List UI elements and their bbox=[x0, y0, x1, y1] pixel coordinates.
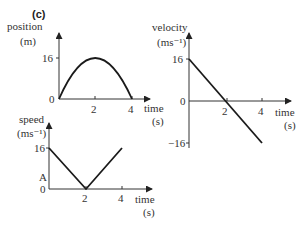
velocity-x-tick-label-4: 4 bbox=[258, 105, 264, 117]
velocity-y-tick-label-16: 16 bbox=[172, 53, 184, 65]
velocity-y-tick-label-neg16: −16 bbox=[168, 137, 186, 149]
speed-x-tick-label-2: 2 bbox=[82, 192, 88, 204]
position-y-label: position bbox=[7, 20, 43, 32]
velocity-y-unit: (ms⁻¹) bbox=[157, 36, 187, 49]
speed-y-label: speed bbox=[19, 113, 45, 125]
speed-y-tick-label-0: 0 bbox=[40, 183, 46, 195]
speed-y-tick-label-16: 16 bbox=[34, 142, 46, 154]
position-graph: position (m) 16 0 2 4 time (s) bbox=[7, 20, 164, 128]
speed-line bbox=[49, 148, 122, 189]
velocity-x-label: time bbox=[275, 106, 295, 118]
speed-y-unit: (ms⁻¹) bbox=[17, 127, 47, 140]
kinematics-graphs: (c) position (m) 16 0 2 4 time (s) veloc… bbox=[0, 0, 308, 232]
velocity-graph: velocity (ms⁻¹) 16 0 −16 2 4 time (s) bbox=[152, 21, 296, 149]
position-y-unit: (m) bbox=[20, 35, 36, 48]
speed-x-unit: (s) bbox=[143, 206, 155, 219]
panel-label: (c) bbox=[32, 8, 46, 20]
velocity-x-tick-label-2: 2 bbox=[222, 105, 228, 117]
position-y-tick-label-0: 0 bbox=[49, 93, 55, 105]
speed-annotation-a: A bbox=[39, 171, 47, 183]
speed-x-label: time bbox=[135, 193, 155, 205]
speed-graph: speed (ms⁻¹) 16 A 0 2 4 time (s) bbox=[17, 113, 155, 219]
velocity-y-tick-label-0: 0 bbox=[180, 95, 186, 107]
velocity-y-label: velocity bbox=[152, 21, 188, 33]
position-x-label: time bbox=[144, 102, 164, 114]
velocity-x-unit: (s) bbox=[284, 119, 296, 132]
position-x-unit: (s) bbox=[152, 115, 164, 128]
speed-x-tick-label-4: 4 bbox=[118, 192, 124, 204]
position-x-tick-label-4: 4 bbox=[128, 103, 134, 115]
position-curve bbox=[59, 58, 132, 99]
position-x-tick-label-2: 2 bbox=[91, 103, 97, 115]
position-y-tick-label-16: 16 bbox=[42, 52, 54, 64]
